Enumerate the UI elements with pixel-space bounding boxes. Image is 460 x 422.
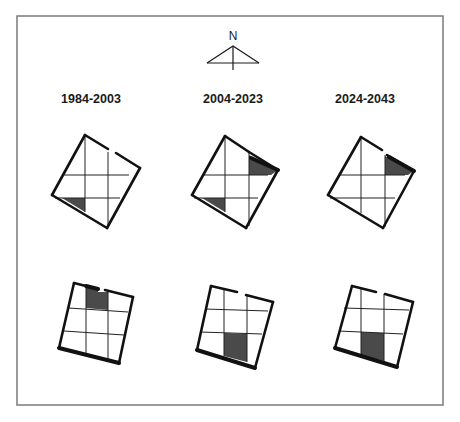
outline-wall xyxy=(105,290,133,297)
outline-wall xyxy=(352,286,376,292)
plan-panels xyxy=(52,135,414,368)
plan-panel-2024-2043 xyxy=(335,286,413,367)
north-label: N xyxy=(229,29,238,43)
plan-panel-2024-2043 xyxy=(328,137,414,228)
plan-panel-1984-2003 xyxy=(52,135,140,228)
period-label-2024-2043: 2024-2043 xyxy=(335,92,395,106)
outline-wall xyxy=(192,136,225,195)
north-arrow-icon: N xyxy=(207,29,259,70)
grid-line xyxy=(205,309,268,311)
outline-wall xyxy=(59,283,74,348)
outline-wall xyxy=(335,286,352,348)
shaded-cell xyxy=(62,198,85,212)
outline-wall xyxy=(116,153,140,168)
outline-wall xyxy=(246,295,273,302)
thick-wall xyxy=(59,348,119,363)
outline-wall xyxy=(246,170,278,228)
grid-line xyxy=(64,331,124,335)
outline-wall xyxy=(197,286,211,350)
outline-wall xyxy=(52,135,85,195)
upper-row-rotated-plan xyxy=(52,135,414,228)
plan-panel-2004-2023 xyxy=(192,136,278,228)
outline-wall xyxy=(361,137,382,150)
outline-wall xyxy=(383,171,414,228)
grid-line xyxy=(344,308,409,310)
outline-wall xyxy=(328,195,383,228)
plan-panel-2004-2023 xyxy=(197,286,273,368)
outline-wall xyxy=(85,135,108,149)
lower-row-plan xyxy=(59,283,413,368)
outline-wall xyxy=(119,297,133,363)
shaded-cell xyxy=(202,198,225,212)
period-labels: 1984-2003 2004-2023 2024-2043 xyxy=(61,92,395,106)
outline-wall xyxy=(397,302,413,367)
outline-wall xyxy=(385,294,413,302)
outline-wall xyxy=(328,137,361,195)
outline-wall xyxy=(255,302,273,368)
plan-panel-1984-2003 xyxy=(59,283,133,363)
period-label-2004-2023: 2004-2023 xyxy=(203,92,263,106)
period-label-1984-2003: 1984-2003 xyxy=(61,92,121,106)
diagram-canvas: N 1984-2003 2004-2023 2024-2043 xyxy=(0,0,460,422)
outline-wall xyxy=(225,136,249,152)
